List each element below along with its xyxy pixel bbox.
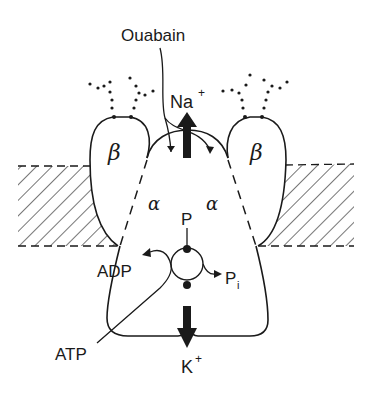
pi-label: P	[225, 269, 236, 288]
ouabain-label: Ouabain	[121, 26, 185, 45]
phosphate-label: P	[181, 210, 192, 229]
beta-right-label: β	[249, 140, 263, 165]
k-label: K	[181, 357, 193, 377]
atp-label: ATP	[55, 345, 87, 364]
beta-left-label: β	[107, 140, 121, 165]
pi-subscript: i	[237, 279, 239, 291]
na-charge: +	[198, 86, 205, 100]
alpha-right-label: α	[206, 193, 218, 214]
glycosylation-chain-left	[88, 76, 154, 119]
alpha-left-label: α	[148, 193, 160, 214]
adp-label: ADP	[97, 262, 132, 281]
na-label: Na	[170, 92, 194, 112]
na-k-atpase-diagram: β β α α Ouabain	[0, 0, 372, 394]
k-charge: +	[195, 352, 202, 366]
glycosylation-chain-right	[221, 73, 288, 119]
